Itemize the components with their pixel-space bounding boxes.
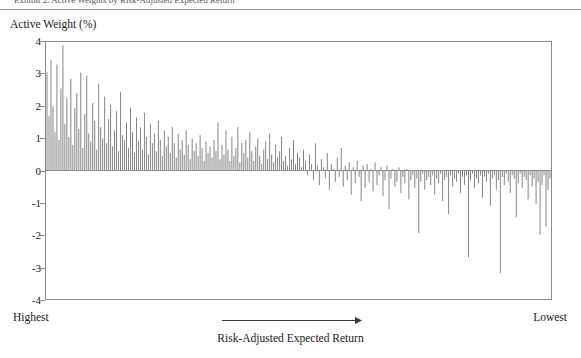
chart-bar (327, 153, 328, 171)
chart-bar (58, 140, 59, 171)
chart-bar (130, 108, 131, 171)
chart-bar (146, 137, 147, 171)
chart-bar (454, 171, 455, 179)
chart-bar (180, 150, 181, 171)
chart-bar (82, 148, 83, 170)
chart-bar (462, 171, 463, 177)
chart-bar (500, 171, 501, 274)
chart-bar (375, 162, 376, 170)
chart-bar (265, 142, 266, 171)
chart-bar (291, 159, 292, 170)
chart-bar (339, 171, 340, 177)
chart-bar (321, 159, 322, 170)
chart-bar (396, 171, 397, 182)
chart-bar (534, 171, 535, 179)
chart-bar (176, 158, 177, 171)
chart-bar (458, 171, 459, 174)
chart-bar (120, 92, 121, 171)
chart-bar (227, 150, 228, 171)
chart-bar (116, 111, 117, 170)
chart-bar (221, 145, 222, 171)
chart-bar (490, 171, 491, 206)
x-axis-caption: Risk-Adjusted Expected Return (0, 332, 581, 344)
chart-bar (196, 143, 197, 170)
chart-bar (166, 146, 167, 170)
chart-bar (208, 153, 209, 171)
chart-bar (112, 146, 113, 170)
chart-bar (406, 169, 407, 171)
chart-bar (452, 171, 453, 187)
chart-bar (106, 143, 107, 170)
y-axis-tick-label: -4 (13, 295, 41, 306)
chart-bar (422, 171, 423, 174)
y-axis-tick-labels: 43210-1-2-3-4 (8, 0, 41, 358)
chart-bar (134, 153, 135, 171)
chart-bar (524, 171, 525, 177)
chart-bar (88, 134, 89, 171)
chart-bar (210, 146, 211, 170)
chart-bar (548, 171, 549, 190)
chart-bar (140, 127, 141, 170)
chart-bar (198, 156, 199, 170)
chart-bar (273, 162, 274, 170)
chart-bar (237, 127, 238, 170)
chart-bar (440, 171, 441, 174)
chart-bar (438, 171, 439, 184)
chart-bar (277, 158, 278, 171)
chart-bar (96, 150, 97, 171)
chart-bar (216, 151, 217, 170)
chart-bar (132, 132, 133, 171)
chart-bar (434, 171, 435, 195)
chart-bar (369, 171, 370, 182)
chart-bar (528, 171, 529, 200)
chart-bar (239, 162, 240, 170)
chart-bar (474, 171, 475, 189)
chart-bar (476, 171, 477, 179)
chart-bar (283, 161, 284, 171)
chart-bar (214, 140, 215, 171)
chart-bar (194, 151, 195, 170)
chart-bar (398, 167, 399, 170)
chart-bar (56, 64, 57, 170)
chart-bar (448, 171, 449, 214)
chart-bar (480, 171, 481, 176)
chart-bar (361, 171, 362, 202)
chart-bar (154, 134, 155, 171)
chart-bar (156, 151, 157, 170)
chart-bar (297, 153, 298, 171)
chart-bar (315, 143, 316, 170)
chart-bar (90, 142, 91, 171)
chart-bar (379, 171, 380, 176)
chart-bar (426, 171, 427, 181)
chart-bar (100, 127, 101, 170)
chart-bar (94, 121, 95, 171)
chart-bar (114, 130, 115, 170)
chart-bar (444, 171, 445, 181)
chart-bar (514, 171, 515, 179)
chart-bar (466, 171, 467, 176)
chart-bar (98, 84, 99, 171)
chart-bar (108, 119, 109, 170)
chart-bar (190, 159, 191, 170)
chart-bar (546, 171, 547, 227)
chart-bar (355, 171, 356, 184)
chart-bar (152, 143, 153, 170)
chart-bar (498, 171, 499, 181)
chart-bar (78, 129, 79, 171)
chart-bar (345, 166, 346, 171)
chart-bar (303, 150, 304, 171)
chart-bar (64, 124, 65, 171)
chart-bar (245, 140, 246, 171)
chart-bar (367, 164, 368, 170)
chart-bar (110, 105, 111, 171)
chart-bar (371, 169, 372, 171)
chart-bar (337, 158, 338, 171)
chart-bar (526, 171, 527, 181)
y-axis-tick-label: 3 (13, 68, 41, 79)
chart-bar (472, 171, 473, 174)
chart-bar (253, 161, 254, 171)
chart-bar (47, 73, 48, 171)
chart-bar (60, 89, 61, 171)
chart-bar (295, 164, 296, 170)
chart-bar (102, 138, 103, 170)
